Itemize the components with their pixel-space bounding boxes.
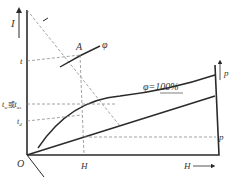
i-axis-label: I [10, 17, 16, 29]
h-axis-label: H [183, 161, 191, 171]
partial-pressure-line [27, 96, 215, 155]
origin-lower-line [27, 155, 44, 177]
ih-diagram: I t φ A φ=100% tw或tas td p O H H p [0, 0, 234, 183]
t-label: t [20, 56, 23, 66]
td-dashed-line [27, 115, 82, 121]
td-label: td [17, 117, 22, 127]
phi-label: φ [102, 39, 108, 50]
h-projection-label: H [80, 161, 88, 171]
p-axis-label: p [223, 68, 229, 78]
tw-tas-label: tw或tas [2, 100, 21, 110]
enthalpy-dashed-line [27, 10, 120, 126]
enthalpy-tick [43, 18, 48, 21]
h-axis [27, 65, 219, 155]
point-a-label: A [75, 41, 83, 52]
saturation-label: φ=100% [143, 81, 179, 92]
origin-label: O [17, 158, 24, 169]
h-dashed-line [80, 55, 84, 155]
